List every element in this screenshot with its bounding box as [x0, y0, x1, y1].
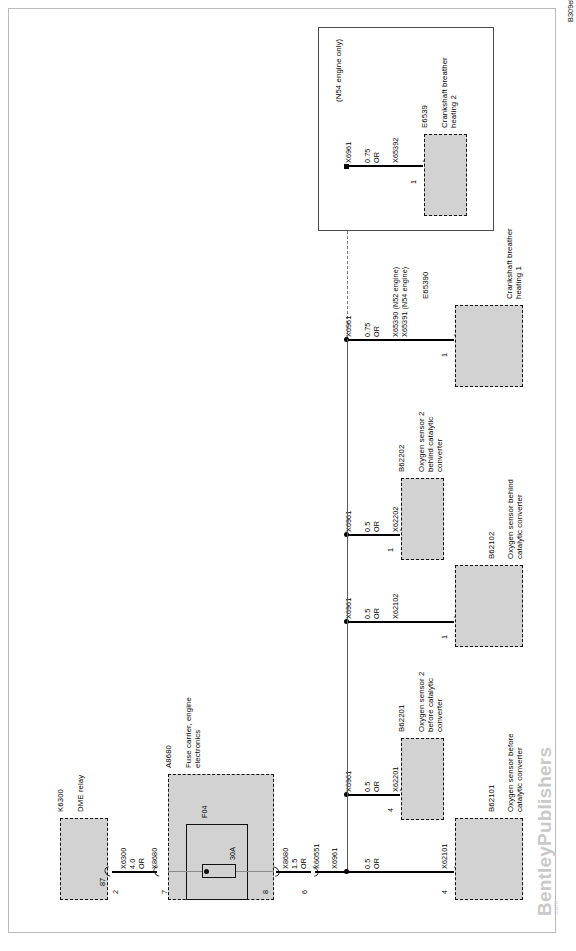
component-name-e65390: Crankshaft breather heating 1 [505, 228, 523, 299]
connector-label-x65392: X65392 [391, 138, 400, 163]
wire-spec-to-b62201-color: OR [372, 781, 381, 792]
component-designation-e6539: E6539 [420, 105, 429, 128]
connector-label-x65391-n54: X65391 (N54 engine) [400, 267, 409, 337]
fuse-terminal-dot [204, 869, 209, 874]
fuse-rating-30a: 30A [228, 847, 237, 860]
n54-engine-only-group-box [318, 27, 494, 231]
component-designation-b62102: B62102 [487, 532, 496, 559]
connector-label-x65390-n52: X65390 (N52 engine) [391, 267, 400, 337]
component-designation-e65390: E65390 [421, 272, 430, 299]
wire-to-e6539 [348, 165, 423, 167]
wire-spec-to-e6539-size: 0.75 [363, 149, 372, 163]
component-name-k6300: DME relay [76, 775, 85, 812]
connector-label-x6961-b62202: X6961 [344, 511, 353, 532]
pin-label-b62201-4: 4 [386, 808, 395, 812]
wire-spec-k6300-a8680-color: OR [137, 858, 146, 869]
fuse-designation-f04: F04 [200, 805, 209, 818]
component-designation-b62101: B62101 [487, 785, 496, 812]
component-b62101-oxygen-sensor-before-catalytic-converter[interactable] [455, 818, 523, 900]
connector-label-x6961-b62102: X6961 [344, 598, 353, 619]
connector-label-x6961-main: X6961 [330, 848, 339, 869]
component-k6300-dme-relay[interactable] [60, 818, 108, 900]
pin-label-e6539-1: 1 [409, 180, 418, 184]
component-b62102-oxygen-sensor-behind-catalytic-converter[interactable] [455, 565, 523, 647]
wire-to-b62201 [348, 794, 400, 796]
pin-label-b62101-4: 4 [440, 890, 449, 894]
wire-spec-to-b62101-color: OR [372, 858, 381, 869]
component-designation-a8680: A8680 [164, 745, 173, 768]
connector-label-x62101: X62101 [440, 844, 449, 869]
wire-to-b62202 [348, 534, 400, 536]
wire-spec-to-b62102-color: OR [372, 608, 381, 619]
connector-label-x6961-b62201: X6961 [344, 771, 353, 792]
junction-node-x6961-main [344, 869, 349, 874]
component-e6539-crankshaft-breather-heating-2[interactable] [424, 134, 467, 216]
wire-spec-to-b62201-size: 0.5 [363, 782, 372, 792]
pin-label-a8680-8: 8 [261, 890, 270, 894]
connector-label-x8680-out: X8680 [281, 848, 290, 869]
component-e65390-crankshaft-breather-heating-1[interactable] [455, 305, 523, 387]
component-name-b62101: Oxygen sensor before catalytic converter [506, 733, 524, 812]
wire-to-e65390 [348, 339, 454, 341]
pin-label-k6300-87: 87 [98, 878, 107, 886]
wire-k6300-to-a8680 [112, 871, 157, 873]
wire-spec-a8680-x60551-size: 1.5 [290, 859, 299, 869]
component-name-b62102: Oxygen sensor behind catalytic converter [506, 479, 524, 559]
watermark-domain-suffix: .com [552, 901, 559, 916]
pin-label-b62102-1: 1 [440, 635, 449, 639]
watermark-bentley-publishers: BentleyPublishers [534, 747, 556, 916]
pin-label-e65390-1: 1 [440, 353, 449, 357]
component-designation-b62202: B62202 [397, 445, 406, 472]
pin-label-x60551-6: 6 [300, 890, 309, 894]
component-name-b62202: Oxygen sensor 2 behind catalytic convert… [417, 412, 445, 472]
component-b62202-oxygen-sensor-2-behind-catalytic-converter[interactable] [401, 478, 444, 560]
wire-spec-k6300-a8680-size: 4.0 [128, 859, 137, 869]
component-designation-k6300: K6300 [56, 789, 65, 812]
wiring-diagram-sheet: B309ele24764 BentleyPublishers .com (N54… [0, 0, 576, 951]
pin-label-b62202-1: 1 [386, 548, 395, 552]
vertical-bus-x6961 [347, 339, 348, 872]
n54-engine-only-note: (N54 engine only) [334, 39, 343, 102]
component-name-a8680: Fuse carrier, engine electronics [184, 697, 202, 768]
wire-spec-to-b62102-size: 0.5 [363, 609, 372, 619]
component-name-b62201: Oxygen sensor 2 before catalytic convert… [417, 672, 445, 732]
component-name-e6539: Crankshaft breather heating 2 [440, 57, 458, 128]
wire-spec-to-e65390-color: OR [372, 326, 381, 337]
pin-label-k6300-2: 2 [111, 890, 120, 894]
component-designation-b62201: B62201 [397, 705, 406, 732]
wire-spec-to-b62202-size: 0.5 [363, 522, 372, 532]
wire-spec-a8680-x60551-color: OR [299, 858, 308, 869]
connector-label-x62102: X62102 [391, 594, 400, 619]
wire-spec-to-e6539-color: OR [372, 152, 381, 163]
fuse-f04-housing[interactable] [186, 824, 248, 900]
wire-spec-to-b62202-color: OR [372, 521, 381, 532]
wire-spec-to-b62101-size: 0.5 [363, 859, 372, 869]
connector-label-x6961-e6539: X6961 [344, 142, 353, 163]
component-b62201-oxygen-sensor-2-before-catalytic-converter[interactable] [401, 738, 444, 820]
wire-to-b62102 [348, 621, 454, 623]
wire-spec-to-e65390-size: 0.75 [363, 323, 372, 337]
connector-label-x6300: X6300 [119, 848, 128, 869]
diagram-code-label: B309ele24764 [566, 0, 575, 22]
wire-a8680-to-x60551 [276, 871, 311, 873]
connector-label-x6961-e65390: X6961 [344, 316, 353, 337]
wire-x60551-to-b62101 [315, 871, 454, 873]
